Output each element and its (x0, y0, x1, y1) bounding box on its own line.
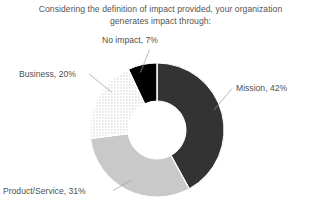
slice-label-no-impact: No impact, 7% (102, 35, 158, 45)
leader-line-business (89, 74, 112, 92)
donut-chart-svg: No impact, 7% Mission, 42% Business, 20%… (0, 0, 321, 212)
slice-label-mission: Mission, 42% (236, 83, 287, 93)
slice-label-product-service: Product/Service, 31% (3, 186, 86, 196)
slice-product-service[interactable] (91, 134, 190, 197)
donut-chart-figure: Considering the definition of impact pro… (0, 0, 321, 212)
slice-label-business: Business, 20% (19, 69, 76, 79)
